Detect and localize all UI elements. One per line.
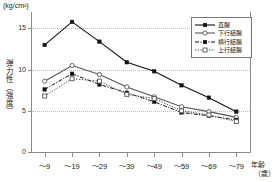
data-point (70, 77, 74, 81)
legend-item-3[interactable]: 横行結腸 (194, 38, 249, 46)
x-axis-title: 年齢 （歳） (251, 160, 275, 178)
data-point (43, 79, 47, 83)
x-tick-label: ～79 (219, 160, 253, 171)
data-point (152, 96, 156, 100)
x-tick-mark (72, 153, 73, 157)
x-tick-mark (127, 153, 128, 157)
data-point (207, 96, 211, 100)
data-point (97, 72, 101, 76)
data-point (97, 79, 101, 83)
data-point (70, 63, 74, 67)
legend-label: 直腸 (216, 21, 230, 29)
x-tick-mark (236, 153, 237, 157)
x-tick-mark (99, 153, 100, 157)
data-point (70, 20, 74, 24)
data-point (43, 94, 47, 98)
y-tick-mark (28, 152, 32, 153)
legend-item-1[interactable]: 直腸 (194, 21, 249, 29)
chart-legend: 直腸下行結腸横行結腸上行結腸 (191, 17, 252, 58)
legend-swatch-icon (194, 29, 216, 37)
legend-swatch-icon (194, 38, 216, 46)
data-point (98, 40, 102, 44)
x-tick-mark (154, 153, 155, 157)
x-tick-mark (182, 153, 183, 157)
data-point (125, 85, 129, 89)
legend-swatch-icon (194, 21, 216, 29)
data-point (125, 92, 129, 96)
legend-swatch-icon (194, 46, 216, 54)
x-tick-mark (45, 153, 46, 157)
data-point (207, 113, 211, 117)
chart-root: (kg/cm²) 弾力性（強度） 年齢 （歳） 051015 ～9～19～29～… (0, 0, 275, 182)
legend-label: 横行結腸 (216, 38, 242, 46)
data-point (180, 83, 184, 87)
legend-item-2[interactable]: 下行結腸 (194, 29, 249, 37)
legend-label: 上行結腸 (216, 46, 242, 54)
data-point (235, 110, 239, 114)
data-point (43, 88, 47, 92)
series-4 (43, 77, 239, 124)
y-tick-label: 0 (12, 148, 26, 155)
y-tick-label: 5 (12, 107, 26, 114)
x-axis-unit-label: （歳） (251, 169, 275, 178)
data-point (125, 60, 129, 64)
legend-item-4[interactable]: 上行結腸 (194, 46, 249, 54)
x-axis-line (31, 152, 251, 153)
y-axis-unit-label: (kg/cm²) (3, 2, 29, 9)
y-tick-label: 15 (12, 24, 26, 31)
data-point (180, 109, 184, 113)
data-point (234, 120, 238, 124)
y-tick-label: 10 (12, 66, 26, 73)
data-point (43, 43, 47, 47)
data-point (152, 69, 156, 73)
data-point (179, 105, 183, 109)
legend-label: 下行結腸 (216, 29, 242, 37)
data-point (70, 72, 74, 76)
x-tick-mark (209, 153, 210, 157)
